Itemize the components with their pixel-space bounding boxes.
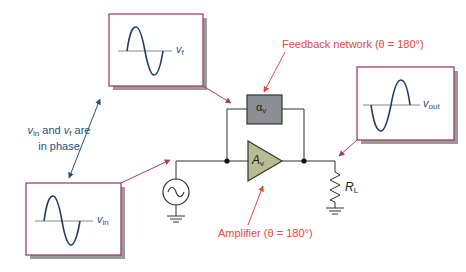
waveform-box-vf xyxy=(109,14,207,90)
feedback-wire-right xyxy=(282,109,304,161)
pointer-arrow-vin xyxy=(121,160,170,183)
waveform-label-vin: vin xyxy=(97,213,109,227)
pointer-arrow-vf xyxy=(203,86,231,103)
junction-dot-right xyxy=(301,158,306,163)
box-frame xyxy=(109,14,203,86)
waveform-label-vf: vf xyxy=(176,43,184,57)
feedback-network-label: Feedback network (θ = 180°) xyxy=(282,38,424,50)
junction-dot-left xyxy=(224,158,229,163)
pointer-arrow-vout xyxy=(339,140,357,156)
feedback-symbol: αv xyxy=(256,101,266,115)
waveform-box-vout xyxy=(357,67,458,144)
phase-note-line1: vin and vf are xyxy=(14,124,104,140)
load-resistor-label: RL xyxy=(345,180,358,195)
phase-note-line2: in phase xyxy=(14,140,104,153)
waveform-label-vout: vout xyxy=(423,97,440,111)
input-wire xyxy=(176,161,248,179)
phase-note: vin and vf are in phase xyxy=(14,124,104,153)
pointer-arrow-amplifier xyxy=(248,186,263,225)
amplifier-symbol: Av xyxy=(252,153,264,168)
waveform-box-vin xyxy=(26,183,125,259)
feedback-wire-left xyxy=(227,109,247,161)
resistor-icon xyxy=(330,172,340,208)
ac-source-icon xyxy=(163,179,189,205)
amplifier-label: Amplifier (θ = 180°) xyxy=(218,227,313,239)
pointer-arrow-feedback-network xyxy=(264,52,285,92)
